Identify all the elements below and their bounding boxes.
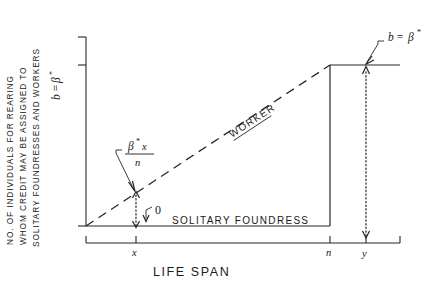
y-axis-value-label-beta: β [50, 77, 63, 84]
worker-label-group: WORKER [227, 101, 278, 140]
fraction-numerator-beta: β [127, 140, 134, 153]
x-axis [86, 236, 400, 243]
fraction-annotation-group: β * x n [116, 137, 154, 192]
measurement-b-equals-beta-star [363, 67, 370, 239]
fraction-numerator-variable: x [141, 141, 147, 152]
beta-star-annotation-star: * [417, 28, 421, 37]
origin-leader-line [146, 207, 152, 219]
y-axis-value-label-b: b [50, 94, 62, 100]
fraction-leader-arrowhead [129, 181, 136, 192]
beta-star-annotation-group: b = β * [366, 28, 422, 65]
fraction-denominator: n [135, 157, 140, 168]
y-axis-value-label-star: * [48, 71, 57, 75]
origin-label: 0 [155, 203, 161, 217]
worker-label: WORKER [227, 101, 277, 139]
y-axis [78, 37, 86, 226]
x-tick-label-n: n [326, 247, 331, 258]
beta-star-leader-hook [378, 41, 384, 44]
x-tick-label-x: x [131, 247, 137, 258]
origin-label-group: 0 [143, 203, 161, 222]
x-tick-label-y: y [361, 248, 367, 259]
measurement-beta-star-x-over-n [133, 192, 140, 228]
beta-star-leader-line [367, 44, 378, 62]
y-axis-caption-line-1: NO. OF INDIVIDUALS FOR REARING [5, 75, 15, 245]
scientific-figure: NO. OF INDIVIDUALS FOR REARING WHOM CRED… [0, 0, 435, 283]
x-axis-title: LIFE SPAN [153, 265, 230, 279]
fraction-leader-hook [116, 150, 122, 153]
x-tick-labels: x n y [131, 247, 367, 259]
y-axis-value-label: b = β * [48, 71, 63, 100]
y-axis-value-label-equals: = [50, 84, 62, 92]
beta-star-annotation-equals: = [396, 31, 404, 43]
y-axis-caption-line-3: SOLITARY FOUNDRESSES AND WORKERS [31, 48, 41, 247]
y-axis-caption: NO. OF INDIVIDUALS FOR REARING WHOM CRED… [5, 48, 41, 247]
fraction-numerator-star: * [136, 137, 140, 146]
solitary-foundress-label: SOLITARY FOUNDRESS [172, 215, 309, 226]
beta-star-annotation-b: b [388, 31, 394, 43]
fraction-leader-line [116, 153, 134, 190]
figure-canvas: NO. OF INDIVIDUALS FOR REARING WHOM CRED… [0, 0, 435, 283]
series-worker-line [86, 65, 330, 226]
y-axis-caption-line-2: WHOM CREDIT MAY BE ASSIGNED TO [18, 67, 28, 245]
beta-star-annotation-beta: β [407, 31, 414, 44]
